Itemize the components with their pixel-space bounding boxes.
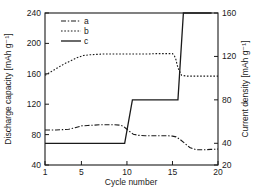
y-tick-label: 200 [27, 38, 41, 48]
y2-tick-label: 120 [222, 51, 236, 61]
figure-container: 4080120160200240 204080120160 15101520 a… [0, 0, 257, 194]
legend-background [57, 14, 105, 44]
series-line-b [45, 54, 218, 76]
y-tick-label: 40 [32, 160, 42, 170]
x-axis-ticks: 15101520 [43, 161, 223, 177]
x-tick-label: 5 [79, 167, 84, 177]
y-tick-label: 160 [27, 69, 41, 79]
legend-items: abc [61, 16, 89, 46]
legend-label-a: a [84, 16, 89, 26]
y2-axis-ticks: 204080120160 [214, 8, 236, 170]
chart-svg: 4080120160200240 204080120160 15101520 a… [0, 0, 257, 194]
x-tick-label: 1 [43, 167, 48, 177]
x-axis-label: Cycle number [105, 177, 158, 187]
y2-tick-label: 20 [222, 160, 232, 170]
x-tick-label: 10 [122, 167, 132, 177]
y2-tick-label: 80 [222, 95, 232, 105]
x-tick-label: 20 [213, 167, 223, 177]
series-line-a [45, 125, 218, 150]
y2-tick-label: 160 [222, 8, 236, 18]
y-axis-label: Discharge capacity [mAh g⁻¹] [3, 33, 13, 144]
y-tick-label: 120 [27, 99, 41, 109]
y2-tick-label: 40 [222, 138, 232, 148]
y-tick-label: 80 [32, 130, 42, 140]
x-tick-label: 15 [168, 167, 178, 177]
y-tick-label: 240 [27, 8, 41, 18]
y-axis-ticks: 4080120160200240 [27, 8, 49, 170]
y2-axis-label: Current density [mAh g⁻¹] [240, 40, 250, 137]
chart-legend: abc [57, 14, 105, 46]
legend-label-b: b [84, 26, 89, 36]
